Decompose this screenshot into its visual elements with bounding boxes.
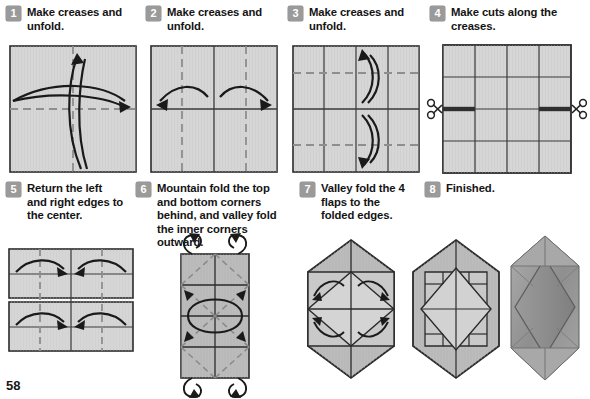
- step-1-badge: 1: [6, 6, 21, 21]
- square-diagonal-creases-diagram: [9, 45, 137, 173]
- page-number: 58: [6, 378, 20, 393]
- step-5-figure: [8, 248, 134, 352]
- step-1-header: 1 Make creases and unfold.: [6, 6, 130, 33]
- step-2-badge: 2: [146, 6, 161, 21]
- arrowhead-mtn-bottom-left: [189, 389, 200, 398]
- tall-rectangle-mountain-folds-diagram: [148, 232, 282, 399]
- hexagon-flaps-diagram: [298, 238, 404, 380]
- step-8-finished-photo: [505, 234, 585, 382]
- step-1-figure: [9, 45, 137, 173]
- scissors-icon-left: [428, 100, 442, 119]
- step-7-header: 7 Valley fold the 4 flaps to the folded …: [300, 182, 410, 223]
- finished-diagram: [403, 238, 509, 380]
- step-2-caption: Make creases and unfold.: [167, 6, 266, 33]
- step-4-figure: [428, 43, 586, 175]
- step-5-header: 5 Return the left and right edges to the…: [6, 182, 124, 223]
- step-3-badge: 3: [288, 6, 303, 21]
- square-quarter-horizontals-diagram: [292, 45, 420, 173]
- step-2-header: 2 Make creases and unfold.: [146, 6, 266, 33]
- cut-sheet-fold-in-diagram: [8, 248, 134, 352]
- square-quarter-verticals-diagram: [150, 45, 278, 173]
- step-6-badge: 6: [136, 182, 151, 197]
- arrowhead-mtn-top-right: [230, 233, 241, 243]
- step-6-figure: [148, 232, 282, 399]
- step-8-caption: Finished.: [446, 182, 495, 196]
- square-grid-with-cuts-diagram: [428, 43, 586, 175]
- step-4-caption: Make cuts along the creases.: [451, 6, 560, 33]
- step-3-header: 3 Make creases and unfold.: [288, 6, 412, 33]
- origami-instruction-page: 1 Make creases and unfold. 2 Make crease…: [0, 0, 590, 399]
- step-7-figure: [298, 238, 404, 380]
- step-7-badge: 7: [300, 182, 315, 197]
- step-3-caption: Make creases and unfold.: [309, 6, 412, 33]
- step-5-badge: 5: [6, 182, 21, 197]
- step-8-badge: 8: [425, 182, 440, 197]
- step-3-figure: [292, 45, 420, 173]
- step-1-caption: Make creases and unfold.: [27, 6, 130, 33]
- step-5-caption: Return the left and right edges to the c…: [27, 182, 124, 223]
- scissors-icon-right: [572, 100, 586, 119]
- step-4-badge: 4: [430, 6, 445, 21]
- step-8-header: 8 Finished.: [425, 182, 535, 197]
- step-2-figure: [150, 45, 278, 173]
- step-7-caption: Valley fold the 4 flaps to the folded ed…: [321, 182, 410, 223]
- arrowhead-mtn-bottom-right: [230, 389, 241, 398]
- step-4-header: 4 Make cuts along the creases.: [430, 6, 560, 33]
- finished-model-photo: [505, 234, 585, 382]
- step-8-figure-diagram: [403, 238, 509, 380]
- arrowhead-mtn-top-left: [189, 233, 200, 243]
